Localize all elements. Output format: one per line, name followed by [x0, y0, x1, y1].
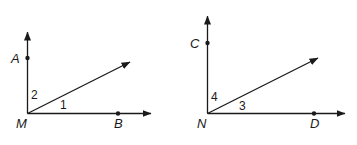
label-point-D: D: [310, 117, 319, 130]
label-point-C: C: [190, 37, 199, 50]
point-A-dot: [25, 56, 29, 60]
diagram-left: [25, 32, 151, 116]
angle-label-3: 3: [239, 100, 246, 112]
point-C-dot: [205, 41, 209, 45]
angle-label-4: 4: [211, 91, 218, 103]
label-vertex-N: N: [197, 117, 206, 130]
diagram-right: [205, 16, 345, 116]
label-vertex-M: M: [16, 117, 27, 130]
angle-label-2: 2: [31, 89, 38, 101]
geometry-figure-canvas: A M B 2 1 C N D 4 3: [0, 0, 357, 145]
label-point-A: A: [11, 52, 20, 65]
figure-svg: [0, 0, 357, 145]
ray-N-diagonal: [208, 58, 319, 114]
angle-label-1: 1: [60, 99, 67, 111]
ray-M-diagonal: [28, 62, 131, 114]
label-point-B: B: [114, 117, 123, 130]
